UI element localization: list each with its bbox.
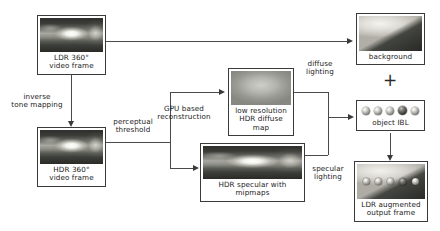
output-sphere-1	[363, 178, 370, 185]
edge-specular-to-ibl-v	[328, 117, 329, 155]
low-res-hdr-diffuse-map-thumbnail	[231, 71, 291, 105]
arrowhead-diffuse-to-ibl	[348, 114, 354, 120]
hdr-360-video-thumbnail	[40, 130, 103, 164]
object-ibl-spheres	[359, 104, 422, 117]
edge-ibl-to-output	[390, 133, 391, 156]
node-hdr-specular-with-mipmaps[interactable]: HDR specular with mipmaps	[200, 143, 305, 202]
edge-label-perceptual-threshold: perceptual threshold	[108, 118, 158, 135]
node-ldr-360-video-frame[interactable]: LDR 360° video frame	[37, 15, 106, 75]
node-object-ibl[interactable]: object IBL	[356, 100, 425, 131]
output-sphere-3	[387, 178, 394, 185]
ldr-augmented-output-thumbnail	[357, 164, 425, 199]
node-object-ibl-caption: object IBL	[359, 117, 422, 128]
edge-ldr-to-hdr	[71, 72, 72, 122]
edge-diffuse-to-ibl-h1	[293, 92, 328, 93]
output-sphere-5	[412, 178, 419, 185]
node-background-caption: background	[359, 51, 422, 62]
edge-gpu-to-diffuse	[170, 92, 220, 93]
node-hdr-360-caption: HDR 360° video frame	[40, 164, 103, 184]
ibl-sphere-2	[374, 107, 382, 115]
ibl-sphere-1	[362, 107, 370, 115]
edge-label-gpu-based-reconstruction: GPU based reconstruction	[156, 105, 212, 122]
node-background[interactable]: background	[356, 13, 425, 65]
plus-operator: +	[383, 72, 397, 89]
background-photo-thumbnail	[359, 16, 422, 51]
diagram-canvas: LDR 360° video frame HDR 360° video fram…	[0, 0, 440, 231]
ibl-sphere-4	[398, 106, 407, 115]
node-low-res-hdr-diffuse-map[interactable]: low resolution HDR diffuse map	[228, 68, 294, 136]
node-ldr-360-caption: LDR 360° video frame	[40, 52, 103, 72]
edge-gpu-to-specular	[170, 168, 194, 169]
edge-label-inverse-tone-mapping: inverse tone mapping	[6, 93, 68, 110]
node-output-caption: LDR augmented output frame	[357, 199, 425, 219]
edge-hdr-to-gpu-bus	[106, 142, 170, 143]
ibl-sphere-3	[386, 107, 394, 115]
node-hdr-360-video-frame[interactable]: HDR 360° video frame	[37, 127, 106, 187]
output-sphere-2	[375, 178, 382, 185]
arrowhead-gpu-to-specular	[193, 165, 199, 171]
ibl-sphere-5	[411, 107, 419, 115]
arrowhead-ldr-to-background	[347, 38, 353, 44]
node-ldr-augmented-output-frame[interactable]: LDR augmented output frame	[354, 161, 428, 222]
edge-label-diffuse-lighting: diffuse lighting	[300, 60, 340, 77]
hdr-specular-mipmaps-thumbnail	[203, 146, 302, 179]
edge-specular-to-ibl-h	[305, 155, 328, 156]
edge-diffuse-to-ibl-v	[328, 92, 329, 117]
edge-ldr-to-background	[106, 41, 348, 42]
node-specular-caption: HDR specular with mipmaps	[203, 179, 302, 199]
arrowhead-gpu-to-diffuse	[219, 89, 225, 95]
output-sphere-4	[399, 178, 407, 186]
node-diffuse-map-caption: low resolution HDR diffuse map	[231, 105, 291, 133]
ldr-360-video-thumbnail	[40, 18, 103, 52]
edge-diffuse-to-ibl-h2	[328, 117, 349, 118]
edge-label-specular-lighting: specular lighting	[306, 165, 350, 182]
